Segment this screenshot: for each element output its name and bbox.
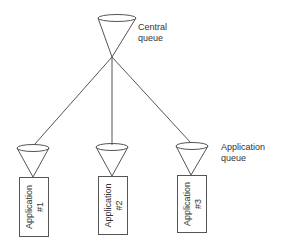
- central-queue-label-line1: Central: [138, 22, 167, 33]
- svg-text:Application: Application: [103, 183, 113, 227]
- central-queue-label: Central queue: [138, 22, 167, 44]
- application-label-1: Application #1: [24, 185, 45, 229]
- application-label-3: Application #3: [182, 182, 203, 226]
- svg-text:#3: #3: [193, 199, 203, 209]
- application-queue-cone-3: [176, 143, 208, 176]
- svg-text:Application: Application: [182, 182, 192, 226]
- application-queue-label-line2: queue: [221, 153, 265, 164]
- connector-line-3: [112, 57, 191, 143]
- svg-text:Application: Application: [24, 185, 34, 229]
- application-label-2: Application #2: [103, 183, 124, 227]
- central-queue-label-line2: queue: [138, 33, 167, 44]
- connector-line-1: [34, 57, 112, 145]
- svg-text:#2: #2: [114, 200, 124, 210]
- application-queue-label-line1: Application: [221, 142, 265, 153]
- svg-text:#1: #1: [35, 202, 45, 212]
- application-queue-cone-2: [96, 144, 128, 177]
- central-queue-cone: [98, 15, 136, 58]
- application-queue-label: Application queue: [221, 142, 265, 164]
- application-queue-cone-1: [17, 145, 49, 178]
